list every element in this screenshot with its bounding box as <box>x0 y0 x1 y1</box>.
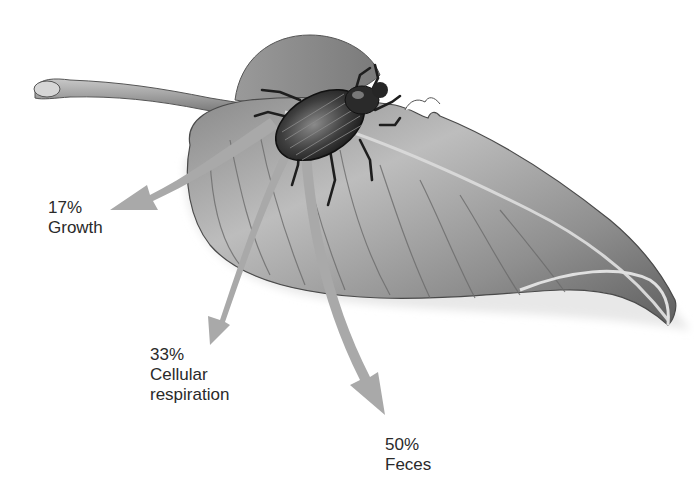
growth-text: Growth <box>48 218 103 238</box>
leaf <box>187 35 675 325</box>
feces-percent: 50% <box>385 435 431 455</box>
label-cellular-respiration: 33% Cellular respiration <box>150 345 229 405</box>
energy-flow-illustration <box>0 0 694 502</box>
cellular-respiration-line1: Cellular <box>150 365 229 385</box>
cellular-respiration-line2: respiration <box>150 385 229 405</box>
label-growth: 17% Growth <box>48 198 103 238</box>
cellular-respiration-percent: 33% <box>150 345 229 365</box>
feces-text: Feces <box>385 455 431 475</box>
growth-percent: 17% <box>48 198 103 218</box>
label-feces: 50% Feces <box>385 435 431 475</box>
